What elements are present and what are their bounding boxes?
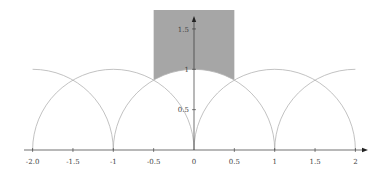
modular-domain-diagram: -2.0 -1.5 -1 -0.5 0 0.5 1 1.5 2 0.5 1 1.… <box>0 0 390 177</box>
y-tick-label: 0.5 <box>178 106 189 114</box>
arc-center-1 <box>194 69 355 150</box>
x-tick-label: -1 <box>110 158 117 166</box>
x-tick-label: 0 <box>192 158 196 166</box>
x-tick-label: 0.5 <box>229 158 240 166</box>
x-tick-label: -1.5 <box>66 158 80 166</box>
x-tick-label: -2.0 <box>26 158 40 166</box>
x-tick-label: 1.5 <box>309 158 320 166</box>
arc-center-2 <box>275 69 356 150</box>
x-tick-label: 1 <box>272 158 276 166</box>
x-tick-label: 2 <box>353 158 357 166</box>
y-tick-label: 1.5 <box>178 26 189 34</box>
x-tick-label: -0.5 <box>147 158 161 166</box>
y-tick-label: 1 <box>185 66 189 74</box>
x-axis-arrow-icon <box>362 148 368 152</box>
arc-center-neg2 <box>33 69 114 150</box>
arc-center-neg1 <box>33 69 194 150</box>
